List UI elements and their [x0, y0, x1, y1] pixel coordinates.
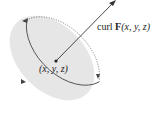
point-label: (x, y, z) — [39, 63, 68, 74]
disk — [0, 0, 111, 114]
curl-diagram — [0, 0, 166, 114]
curl-label: curl F(x, y, z) — [97, 21, 150, 32]
